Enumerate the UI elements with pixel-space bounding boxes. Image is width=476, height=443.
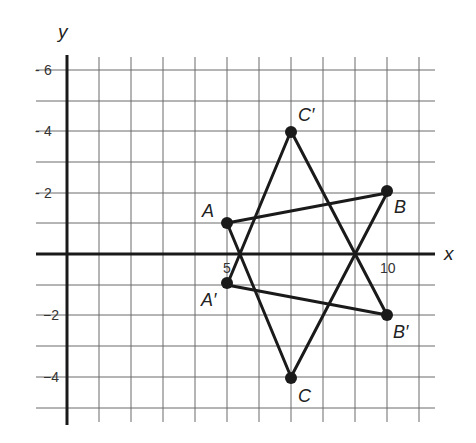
label-A-prime: A′: [200, 290, 217, 310]
svg-text:-: -: [35, 62, 40, 78]
y-tick-6: 6: [44, 62, 52, 78]
point-C: [285, 372, 297, 384]
label-C-prime: C′: [298, 105, 315, 125]
y-tick-4: 4: [44, 123, 52, 139]
svg-text:-: -: [35, 185, 40, 201]
label-B-prime: B′: [393, 322, 409, 342]
point-B: [381, 185, 393, 197]
grid-lines: [36, 57, 435, 422]
y-tick-neg4: −4: [43, 369, 59, 385]
label-A: A: [201, 201, 214, 221]
x-axis-label: x: [443, 243, 455, 264]
y-tick-neg2: −2: [43, 307, 59, 323]
coordinate-plane: y x - 6 - 4 - 2 −2 −4 5 10 A B C A′ B′ C…: [0, 0, 476, 443]
point-C-prime: [285, 126, 297, 138]
y-axis-label: y: [56, 21, 69, 42]
x-tick-5: 5: [223, 260, 231, 276]
point-A-prime: [221, 277, 233, 289]
label-C: C: [298, 386, 312, 406]
svg-text:-: -: [35, 123, 40, 139]
x-tick-10: 10: [380, 260, 396, 276]
point-A: [221, 217, 233, 229]
point-B-prime: [381, 309, 393, 321]
y-tick-2: 2: [44, 185, 52, 201]
label-B: B: [394, 197, 406, 217]
